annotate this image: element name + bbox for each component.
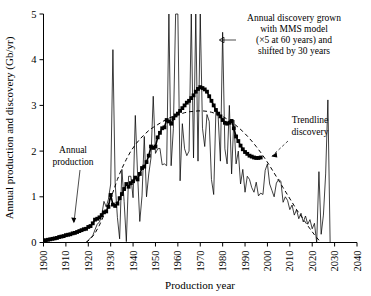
production-data-point (107, 205, 111, 209)
x-axis-ticks (44, 243, 358, 247)
trendline-annotation-leader (272, 141, 288, 156)
x-tick-label: 1910 (60, 251, 71, 272)
y-axis-tick-labels: 012345 (31, 9, 37, 249)
production-data-point (232, 126, 236, 130)
y-tick-label: 5 (31, 9, 36, 20)
production-data-point (205, 90, 209, 94)
discovery-annotation-line-1: Annual discovery grown (247, 13, 341, 23)
production-data-point (154, 145, 158, 149)
production-data-point (120, 192, 124, 196)
production-data-point (207, 94, 211, 98)
trendline-annotation-arrowhead (271, 152, 277, 157)
trendline-annotation: Trendline discovery (271, 115, 328, 158)
production-annotation-leader (74, 170, 80, 222)
production-data-point (136, 178, 140, 182)
production-data-point (210, 99, 214, 103)
production-data-point (122, 187, 126, 191)
chart-canvas: 012345 190019101920193019401950196019701… (0, 0, 371, 296)
x-axis-title: Production year (165, 279, 235, 291)
trendline-annotation-line-2: discovery (292, 127, 329, 137)
production-data-point (212, 104, 216, 108)
x-tick-label: 2000 (262, 251, 273, 272)
x-tick-label: 1920 (83, 251, 94, 272)
discovery-annotation-arrow (219, 37, 236, 43)
production-data-point (169, 122, 173, 126)
y-axis-ticks (40, 14, 44, 243)
production-data-point (230, 119, 234, 123)
production-data-point (142, 165, 146, 169)
x-tick-label: 2030 (329, 251, 340, 272)
production-data-point (234, 135, 238, 139)
discovery-annotation-line-4: shifted by 30 years (258, 46, 330, 56)
x-tick-label: 2020 (307, 251, 318, 272)
x-tick-label: 2010 (284, 251, 295, 272)
production-data-point (147, 154, 151, 158)
discovery-annotation-line-2: with MMS model (260, 24, 328, 34)
production-annotation-arrowhead (71, 218, 76, 224)
production-data-point (219, 114, 223, 118)
x-tick-label: 1990 (240, 251, 251, 272)
x-tick-label: 1970 (195, 251, 206, 272)
production-data-point (192, 93, 196, 97)
production-data-point (109, 193, 113, 197)
y-tick-label: 4 (31, 54, 37, 65)
production-data-point (156, 135, 160, 139)
production-data-point (138, 172, 142, 176)
y-axis-title: Annual production and discovery (Gb/yr) (3, 36, 16, 219)
production-data-point (158, 131, 162, 135)
x-axis-tick-labels: 1900191019201930194019501960197019801990… (38, 251, 363, 272)
production-data-point (214, 108, 218, 112)
production-data-point (259, 156, 263, 160)
production-annotation-line-2: production (52, 157, 93, 167)
discovery-annotation-line-3: (×5 at 60 years) and (256, 35, 332, 46)
discovery-annotation: Annual discovery grown with MMS model (×… (219, 13, 341, 56)
production-data-point (116, 202, 120, 206)
x-tick-label: 1980 (217, 251, 228, 272)
figure-container: 012345 190019101920193019401950196019701… (0, 0, 371, 296)
production-annotation: Annual production (52, 145, 93, 223)
production-annotation-line-1: Annual (59, 145, 87, 155)
production-data-point (239, 144, 243, 148)
production-data-point (163, 125, 167, 129)
production-data-point (118, 196, 122, 200)
production-data-point (236, 139, 240, 143)
y-tick-label: 3 (31, 100, 36, 111)
x-tick-label: 1960 (172, 251, 183, 272)
production-data-point (127, 185, 131, 189)
x-tick-label: 1930 (105, 251, 116, 272)
x-tick-label: 1950 (150, 251, 161, 272)
production-data-point (91, 221, 95, 225)
x-tick-label: 2040 (352, 251, 363, 272)
x-tick-label: 1940 (128, 251, 139, 272)
y-tick-label: 2 (31, 146, 36, 157)
y-tick-label: 1 (31, 191, 36, 202)
trendline-annotation-line-1: Trendline (292, 115, 329, 125)
y-tick-label: 0 (31, 237, 36, 248)
production-data-point (131, 179, 135, 183)
production-data-point (145, 160, 149, 164)
production-data-point (104, 210, 108, 214)
x-tick-label: 1900 (38, 251, 49, 272)
